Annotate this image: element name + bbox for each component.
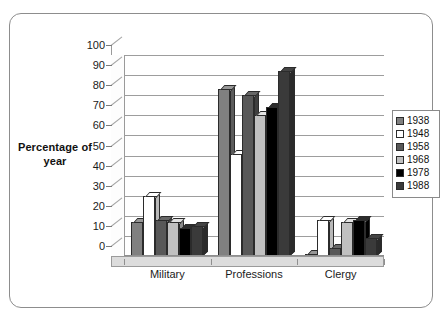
- y-tick-label: 60: [75, 120, 105, 131]
- x-tick-mark: [124, 259, 125, 265]
- y-tick-label: 40: [75, 161, 105, 172]
- bar[interactable]: [266, 107, 278, 256]
- legend-label: 1978: [407, 168, 429, 178]
- chart-legend[interactable]: 193819481958196819781988: [392, 110, 440, 198]
- bar-front: [179, 228, 191, 256]
- bar-group: [124, 55, 211, 256]
- y-tick-mark: [106, 45, 112, 46]
- bar-front: [230, 154, 242, 257]
- x-tick-mark: [211, 259, 212, 265]
- y-tick-mark: [106, 186, 112, 187]
- bar[interactable]: [179, 228, 191, 256]
- bar-front: [155, 220, 167, 256]
- y-tick-mark: [106, 105, 112, 106]
- plot-floor-edge: [124, 255, 384, 256]
- y-tick-mark: [106, 246, 112, 247]
- bar-front: [242, 95, 254, 256]
- bar-front: [167, 222, 179, 256]
- legend-swatch-icon: [396, 169, 404, 177]
- y-tick-label: 80: [75, 80, 105, 91]
- y-tick-mark: [106, 166, 112, 167]
- legend-item[interactable]: 1938: [396, 114, 436, 127]
- bar[interactable]: [143, 196, 155, 256]
- bar[interactable]: [131, 222, 143, 256]
- chart-screenshot: Percentage of year 010203040506070809010…: [0, 0, 444, 322]
- legend-label: 1948: [407, 129, 429, 139]
- bar-front: [191, 226, 203, 256]
- bar[interactable]: [341, 222, 353, 256]
- bar-front: [341, 222, 353, 256]
- y-tick-mark: [106, 146, 112, 147]
- bar[interactable]: [242, 95, 254, 256]
- legend-item[interactable]: 1988: [396, 179, 436, 192]
- bar-front: [317, 220, 329, 256]
- legend-item[interactable]: 1978: [396, 166, 436, 179]
- y-tick-mark: [106, 85, 112, 86]
- legend-item[interactable]: 1958: [396, 140, 436, 153]
- y-tick-label: 10: [75, 221, 105, 232]
- bar-front: [278, 71, 290, 256]
- bar[interactable]: [317, 220, 329, 256]
- side-wall: [111, 55, 124, 256]
- y-tick-mark: [106, 206, 112, 207]
- y-tick-mark: [106, 226, 112, 227]
- legend-label: 1968: [407, 155, 429, 165]
- y-tick-label: 50: [75, 141, 105, 152]
- y-tick-mark: [106, 65, 112, 66]
- bar-front: [254, 115, 266, 256]
- bar[interactable]: [191, 226, 203, 256]
- bar-group: [211, 55, 298, 256]
- bar[interactable]: [218, 89, 230, 256]
- bar-side: [203, 223, 208, 256]
- bar-side: [290, 69, 295, 256]
- legend-item[interactable]: 1968: [396, 153, 436, 166]
- legend-label: 1938: [407, 116, 429, 126]
- bar[interactable]: [278, 71, 290, 256]
- legend-item[interactable]: 1948: [396, 127, 436, 140]
- x-tick-label: Military: [124, 268, 211, 280]
- y-tick-label: 0: [75, 241, 105, 252]
- legend-swatch-icon: [396, 143, 404, 151]
- legend-swatch-icon: [396, 117, 404, 125]
- bar[interactable]: [353, 220, 365, 256]
- legend-swatch-icon: [396, 156, 404, 164]
- plot-area: [124, 55, 384, 256]
- bar[interactable]: [167, 222, 179, 256]
- bar-group: [297, 55, 384, 256]
- bar[interactable]: [365, 238, 377, 256]
- bar-front: [353, 220, 365, 256]
- x-tick-mark: [384, 259, 385, 265]
- bar-front: [365, 238, 377, 256]
- plot-floor: [111, 256, 384, 267]
- x-tick-mark: [297, 259, 298, 265]
- bar-front: [218, 89, 230, 256]
- bar[interactable]: [230, 154, 242, 257]
- x-tick-label: Clergy: [297, 268, 384, 280]
- legend-swatch-icon: [396, 130, 404, 138]
- y-tick-label: 100: [75, 40, 105, 51]
- y-tick-label: 70: [75, 100, 105, 111]
- legend-label: 1958: [407, 142, 429, 152]
- bar-front: [131, 222, 143, 256]
- legend-label: 1988: [407, 181, 429, 191]
- bar-front: [266, 107, 278, 256]
- bar[interactable]: [155, 220, 167, 256]
- legend-swatch-icon: [396, 182, 404, 190]
- bar[interactable]: [254, 115, 266, 256]
- x-tick-label: Professions: [211, 268, 298, 280]
- y-tick-label: 30: [75, 181, 105, 192]
- bar-front: [143, 196, 155, 256]
- y-tick-mark: [106, 125, 112, 126]
- y-tick-label: 90: [75, 60, 105, 71]
- y-tick-label: 20: [75, 201, 105, 212]
